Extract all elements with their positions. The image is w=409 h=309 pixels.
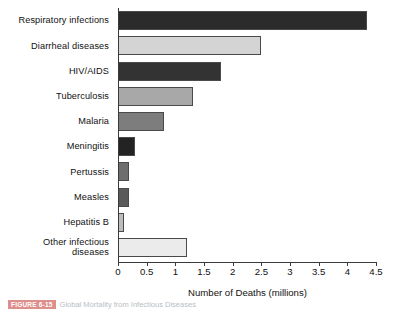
x-axis-tick-label: 0 <box>115 266 120 277</box>
x-axis-tick-label: 3.5 <box>312 266 325 277</box>
category-label: Pertussis <box>70 167 109 178</box>
bar <box>118 87 193 106</box>
category-label: Diarrheal diseases <box>31 41 109 52</box>
category-label: Respiratory infections <box>18 15 109 26</box>
category-label: Malaria <box>78 116 109 127</box>
figure-number-tag: FIGURE 6-15 <box>8 300 56 309</box>
category-label: Tuberculosis <box>56 91 109 102</box>
bar <box>118 238 187 257</box>
category-label: Other infectious diseases <box>43 237 109 258</box>
figure-caption: FIGURE 6-15 Global Mortality from Infect… <box>8 300 196 309</box>
bar <box>118 112 164 131</box>
x-axis-title: Number of Deaths (millions) <box>118 287 377 298</box>
x-axis-tick-label: 4 <box>345 266 350 277</box>
x-axis-tick-label: 2 <box>230 266 235 277</box>
bar <box>118 162 129 181</box>
category-label: Hepatitis B <box>63 217 109 228</box>
bar <box>118 62 221 81</box>
bar <box>118 137 135 156</box>
figure-caption-text: Global Mortality from Infectious Disease… <box>60 300 196 309</box>
figure-root: Respiratory infectionsDiarrheal diseases… <box>0 0 409 309</box>
category-label: Meningitis <box>67 141 109 152</box>
x-axis-line <box>118 262 377 263</box>
x-axis-tick-label: 0.5 <box>140 266 153 277</box>
category-label: Measles <box>74 192 109 203</box>
x-axis-tick-label: 3 <box>287 266 292 277</box>
plot-area <box>118 8 376 260</box>
x-axis-tick-label: 4.5 <box>369 266 382 277</box>
bar <box>118 36 261 55</box>
x-axis-tick-label: 2.5 <box>255 266 268 277</box>
category-label-column: Respiratory infectionsDiarrheal diseases… <box>0 8 113 260</box>
x-axis-tick-label: 1 <box>173 266 178 277</box>
bar <box>118 188 129 207</box>
y-axis-line <box>118 8 119 262</box>
x-axis-tick-label: 1.5 <box>197 266 210 277</box>
category-label: HIV/AIDS <box>69 66 109 77</box>
bar <box>118 11 367 30</box>
